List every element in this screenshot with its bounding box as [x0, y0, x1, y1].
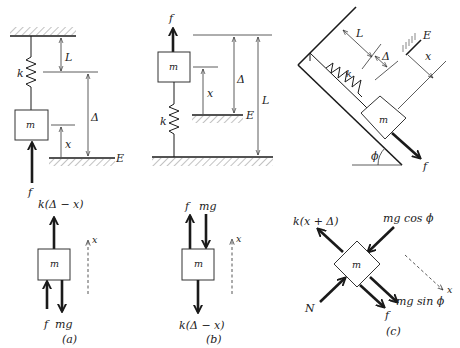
caption-a: (a): [62, 333, 77, 346]
delta-label: Δ: [381, 50, 390, 63]
spring-force-arrow: [318, 229, 343, 252]
normal-force-arrow: [320, 278, 345, 302]
natural-length-line: [362, 44, 381, 69]
ground-hatch: [49, 159, 115, 166]
ledge-hatch: [192, 116, 243, 123]
spring-force-label: k(x + Δ): [293, 215, 339, 228]
spring-force-label: k(Δ − x): [38, 198, 84, 211]
force-label: f: [27, 186, 34, 199]
spring: [26, 57, 36, 87]
panel-b-free-body: f mg m k(Δ − x) x (b): [179, 200, 242, 346]
weight-normal-label: mg cos ϕ: [383, 212, 434, 225]
delta-label: Δ: [90, 111, 99, 124]
force-label: f: [422, 160, 429, 173]
weight-label: mg: [199, 200, 216, 213]
caption-c: (c): [386, 325, 401, 338]
delta-label: Δ: [236, 73, 245, 86]
ground-hatch: [152, 158, 273, 166]
spring: [169, 104, 179, 134]
applied-force-label: f: [43, 318, 50, 331]
weight-normal-arrow: [368, 227, 394, 252]
x-axis-label: x: [92, 234, 98, 245]
length-label: L: [261, 94, 269, 107]
mass-label: m: [194, 258, 203, 269]
x-label: x: [65, 138, 72, 151]
mass-label: m: [26, 119, 35, 130]
delta-line: [375, 61, 398, 80]
panel-b-system: f m x Δ L k E: [152, 12, 273, 166]
spring: [326, 63, 362, 97]
length-label: L: [355, 27, 363, 40]
spring-force-label: k(Δ − x): [179, 319, 225, 332]
mass-label: m: [169, 61, 178, 72]
x-axis-label: x: [447, 284, 453, 295]
applied-force-label: f: [184, 200, 191, 213]
applied-force-label: f: [384, 309, 391, 322]
normal-force-label: N: [304, 302, 315, 315]
rail-top: [310, 53, 362, 103]
angle-label: ϕ: [371, 150, 379, 163]
x-axis-label: x: [236, 233, 242, 244]
panel-c-free-body: k(x + Δ) mg cos ϕ m N mg sin ϕ f x (c): [293, 212, 453, 338]
equilibrium-label: E: [115, 152, 124, 165]
caption-b: (b): [206, 333, 222, 346]
equilibrium-marker: [406, 40, 421, 55]
equilibrium-label: E: [245, 109, 254, 122]
length-label: L: [64, 51, 72, 64]
angle-arc: [378, 148, 385, 165]
applied-force-arrow: [392, 133, 420, 158]
spring-label: k: [17, 67, 24, 80]
x-label: x: [207, 87, 214, 100]
mass-label: m: [352, 259, 361, 270]
x-axis-arrow: [405, 255, 443, 290]
weight-label: mg: [55, 318, 72, 331]
spring-label: k: [346, 68, 352, 79]
mass-label: m: [50, 258, 59, 269]
end-wall: [298, 7, 356, 65]
force-label: f: [168, 12, 175, 25]
panel-c-system: k m f ϕ L Δ E x: [298, 7, 446, 173]
spring-mass-diagram: k L Δ m x E f f m x Δ L k: [0, 0, 460, 348]
equilibrium-label: E: [422, 29, 431, 42]
panel-a-free-body: k(Δ − x) m f mg x (a): [38, 198, 98, 346]
ceiling-hatch: [10, 27, 76, 35]
mass-label: m: [379, 114, 388, 125]
spring-label: k: [160, 115, 167, 128]
x-label: x: [425, 50, 432, 63]
weight-tangent-label: mg sin ϕ: [396, 295, 445, 308]
panel-a-system: k L Δ m x E f: [10, 27, 124, 199]
